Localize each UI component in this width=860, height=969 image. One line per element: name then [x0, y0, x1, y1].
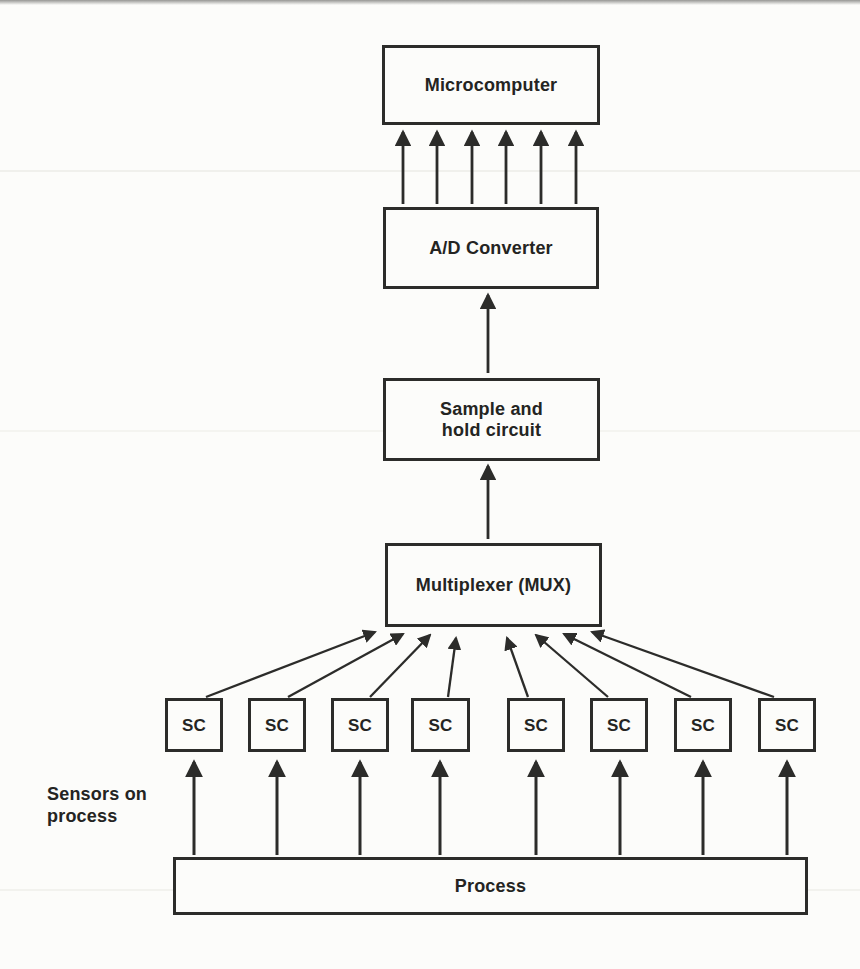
sample-hold-box: Sample and hold circuit [383, 378, 600, 461]
sensors-annotation-line2: process [47, 805, 147, 827]
sc-box-2: SC [248, 698, 306, 752]
sc-label-8: SC [775, 715, 799, 736]
sc-label-6: SC [607, 715, 631, 736]
microcomputer-box: Microcomputer [382, 45, 600, 125]
sc-box-4: SC [411, 698, 470, 752]
process-label: Process [455, 876, 526, 897]
diagram-canvas: Microcomputer A/D Converter Sample and h… [0, 0, 860, 969]
sc-box-3: SC [331, 698, 389, 752]
sample-hold-label-line2: hold circuit [442, 420, 541, 441]
arrow-sc4-to-mux [448, 638, 456, 697]
sc-label-4: SC [428, 715, 452, 736]
adc-box: A/D Converter [383, 207, 599, 289]
arrow-sc5-to-mux [507, 638, 528, 697]
sample-hold-label-line1: Sample and [440, 399, 543, 420]
arrow-sc3-to-mux [370, 635, 430, 697]
mux-label: Multiplexer (MUX) [416, 575, 571, 596]
sc-label-2: SC [265, 715, 289, 736]
process-box: Process [173, 857, 808, 915]
sc-label-1: SC [182, 715, 206, 736]
microcomputer-label: Microcomputer [425, 75, 558, 96]
mux-box: Multiplexer (MUX) [385, 543, 602, 627]
adc-label: A/D Converter [429, 238, 553, 259]
sc-label-5: SC [524, 715, 548, 736]
sensors-annotation: Sensors on process [47, 783, 147, 827]
sensors-annotation-line1: Sensors on [47, 783, 147, 805]
sc-box-1: SC [165, 698, 223, 752]
sc-box-8: SC [758, 698, 816, 752]
sc-box-6: SC [590, 698, 648, 752]
sc-label-7: SC [691, 715, 715, 736]
sc-label-3: SC [348, 715, 372, 736]
sc-box-5: SC [507, 698, 565, 752]
arrow-sc8-to-mux [592, 632, 774, 697]
sc-box-7: SC [674, 698, 732, 752]
arrow-sc6-to-mux [536, 635, 608, 697]
arrow-sc7-to-mux [564, 634, 691, 697]
